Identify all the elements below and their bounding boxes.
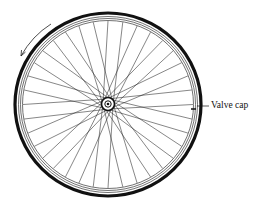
valve-cap-label: Valve cap bbox=[211, 100, 248, 110]
hub bbox=[102, 98, 115, 111]
rotation-arrow-icon bbox=[21, 24, 51, 56]
